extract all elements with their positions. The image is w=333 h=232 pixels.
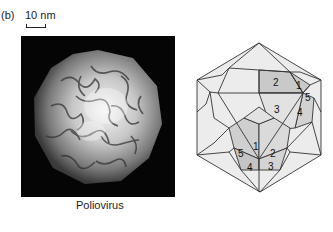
face-label: 3	[274, 104, 280, 115]
face-label: 3	[268, 161, 274, 172]
face-label: 4	[247, 162, 253, 173]
face-label: 5	[238, 148, 244, 159]
icosahedron-diagram: 2 1 5 3 4 1 5 2 4 3	[0, 0, 333, 232]
face-label: 1	[253, 141, 259, 152]
face-label: 2	[273, 77, 279, 88]
face-label: 5	[305, 92, 311, 103]
face-label: 2	[270, 148, 276, 159]
face-label: 1	[296, 80, 302, 91]
face-label: 4	[297, 107, 303, 118]
